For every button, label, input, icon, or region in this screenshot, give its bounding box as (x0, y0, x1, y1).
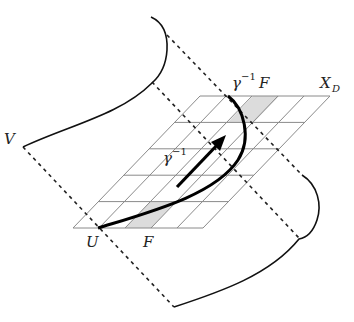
label-gamma-inv-F: γ −1 F (232, 71, 270, 92)
label-X-D-base: X (319, 74, 332, 92)
diagram-svg: V U F γ −1 F γ −1 X D (0, 0, 354, 322)
curve-V (23, 17, 167, 147)
label-gamma-inv-F-base: γ (232, 74, 241, 92)
label-F: F (142, 233, 154, 251)
diagram-canvas: V U F γ −1 F γ −1 X D (0, 0, 354, 322)
label-X-D: X D (319, 74, 340, 94)
label-gamma-inv-F-tail: F (258, 74, 270, 92)
shaded-cell-gamma-inv-F (228, 96, 279, 122)
label-X-D-sub: D (331, 83, 340, 94)
label-gamma-inv-F-sup: −1 (241, 71, 256, 82)
label-gamma-inv-base: γ (163, 149, 172, 167)
label-gamma-inv-sup: −1 (172, 146, 187, 157)
label-gamma-inv: γ −1 (163, 146, 187, 167)
label-V: V (4, 130, 17, 148)
label-U: U (86, 233, 100, 251)
